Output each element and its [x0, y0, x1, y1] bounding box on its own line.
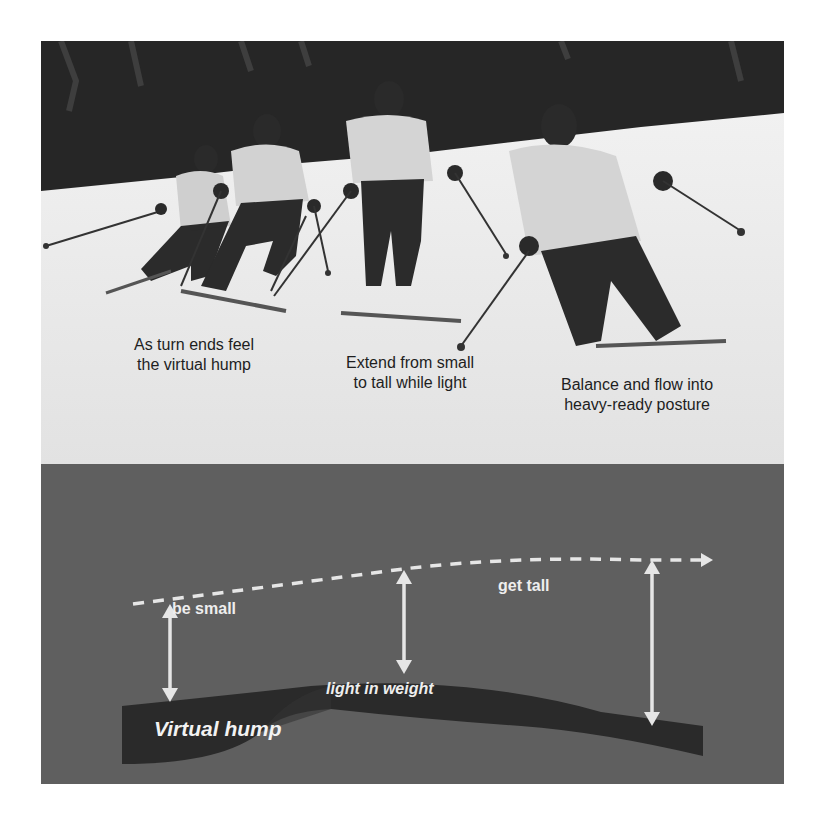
virtual-hump-diagram: be small get tall light in weight Virtua…	[41, 464, 784, 784]
label-get-tall: get tall	[498, 577, 550, 595]
caption-extend-line1: Extend from small	[346, 353, 474, 373]
caption-turn-ends: As turn ends feel the virtual hump	[134, 335, 254, 375]
caption-extend: Extend from small to tall while light	[346, 353, 474, 393]
diagram-graphics	[41, 464, 784, 784]
caption-balance-line1: Balance and flow into	[561, 375, 713, 395]
label-light-in-weight: light in weight	[326, 680, 434, 698]
caption-balance: Balance and flow into heavy-ready postur…	[561, 375, 713, 415]
caption-balance-line2: heavy-ready posture	[561, 395, 713, 415]
caption-turn-ends-line1: As turn ends feel	[134, 335, 254, 355]
get-tall-arrow-icon	[644, 560, 660, 726]
caption-turn-ends-line2: the virtual hump	[134, 355, 254, 375]
extend-arrow-icon	[396, 570, 412, 674]
path-arrowhead-icon	[701, 553, 713, 567]
ski-photo: As turn ends feel the virtual hump Exten…	[41, 41, 784, 464]
caption-extend-line2: to tall while light	[346, 373, 474, 393]
center-of-mass-path	[133, 559, 705, 604]
be-small-arrow-icon	[162, 604, 178, 702]
figure: As turn ends feel the virtual hump Exten…	[41, 41, 784, 784]
label-virtual-hump: Virtual hump	[154, 717, 282, 741]
label-be-small: be small	[172, 600, 236, 618]
